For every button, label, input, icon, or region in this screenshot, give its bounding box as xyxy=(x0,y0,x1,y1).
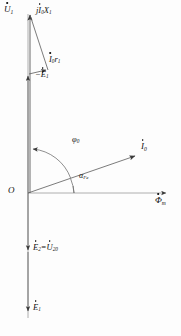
e2-u20-vector-label: E2=U20 xyxy=(33,243,58,252)
u1-vector-label: U1 xyxy=(4,5,13,14)
alpha-fe-tick xyxy=(73,186,74,193)
alpha-fe-angle-label: αFe xyxy=(79,172,88,180)
ji0x1-vector-line xyxy=(30,15,48,70)
phi0-angle-label: φ0 xyxy=(72,135,79,144)
phasor-diagram-figure: O U1 jI0X1 I0r1 −E1 φ0 I0 αFe Φm E2=U20 … xyxy=(0,0,181,336)
i0-current-vector-label: I0 xyxy=(141,142,147,151)
phi0-arc xyxy=(33,149,71,178)
origin-label: O xyxy=(8,186,15,195)
flux-axis-label: Φm xyxy=(155,196,166,205)
phasor-diagram-canvas xyxy=(0,0,181,336)
ji0x1-vector-label: jI0X1 xyxy=(36,6,52,15)
i0r1-vector-label: I0r1 xyxy=(49,55,60,64)
e1-vector-label: E1 xyxy=(33,303,41,312)
minus-e1-vector-label: −E1 xyxy=(35,70,49,79)
